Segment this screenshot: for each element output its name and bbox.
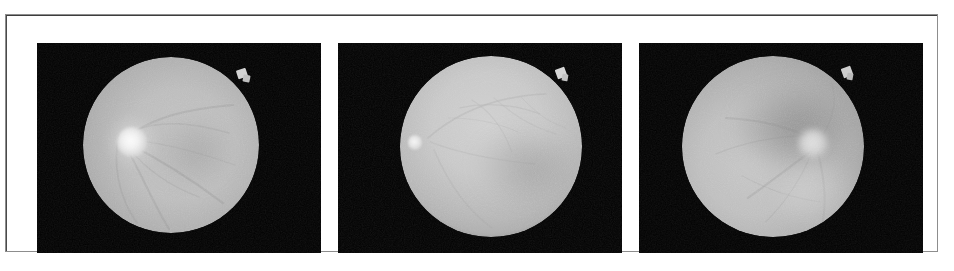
rim-notch-c [840, 66, 853, 79]
figure-frame [5, 14, 938, 252]
fundus-panel-c-caption [639, 43, 640, 44]
rim-notch-b [554, 67, 567, 80]
fundus-panel-strip [37, 43, 923, 253]
retina-base-c [682, 56, 864, 237]
rim-notch-tip-a [243, 74, 251, 82]
retina-disc-a [83, 57, 259, 233]
rim-notch-tip-c [847, 73, 854, 81]
retina-disc-c [682, 56, 864, 237]
fundus-panel-a[interactable] [37, 43, 321, 253]
fundus-panel-b-caption [338, 43, 339, 44]
retina-disc-b [400, 56, 582, 237]
rim-notch-tip-b [561, 74, 568, 82]
figure-root [0, 0, 954, 271]
fundus-panel-a-caption [37, 43, 38, 44]
fundus-panel-b[interactable] [338, 43, 622, 253]
rim-notch-a [236, 68, 249, 80]
retina-base-a [83, 57, 259, 233]
fundus-panel-c[interactable] [639, 43, 923, 253]
retina-base-b [400, 56, 582, 237]
